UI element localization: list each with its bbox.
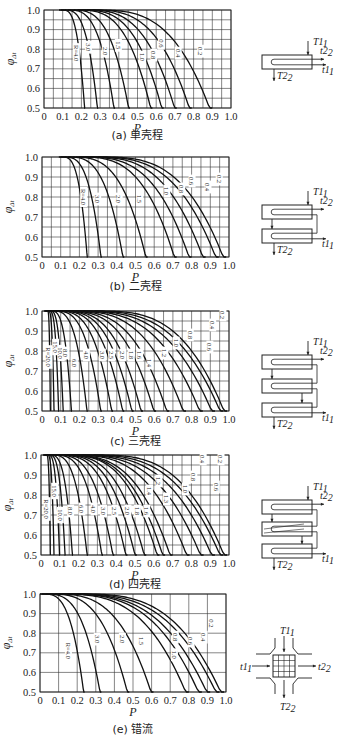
curve-label: 1.5 [115,39,122,52]
curve-label: 1.4 [146,485,153,498]
curve-label: 1.0 [171,648,178,661]
curve-label: 1.5 [138,635,145,648]
x-tick-label: 1.0 [222,414,235,425]
curve-label: 1.3 [163,493,170,506]
y-tick-label: 0.6 [27,83,40,94]
x-tick-label: 0.4 [110,414,124,425]
curve-label: 1.5 [136,193,143,206]
x-tick-label: 0.3 [91,558,104,569]
x-tick-label: 0 [39,414,44,425]
x-tick-label: 0.7 [166,414,179,425]
svg-text:0.6: 0.6 [187,637,194,646]
svg-text:0.2: 0.2 [216,175,223,183]
svg-text:1.3: 1.3 [163,495,170,503]
exchanger-diagram-cross-flow: T11t11t22T22 [240,625,331,714]
curve-label: 1.6 [136,349,143,362]
chart-panel-a: R=4.03.02.01.51.00.80.60.40.200.10.20.30… [3,5,334,143]
y-tick-label: 1.0 [25,306,38,317]
curve-label: 1.8 [134,505,141,518]
y-tick-label: 0.7 [25,212,38,223]
y-tick-label: 0.7 [25,366,38,377]
x-tick-label: 0.1 [56,111,69,122]
x-tick-label: 0.6 [147,558,160,569]
svg-text:T22: T22 [277,559,293,572]
y-tick-label: 0.5 [25,406,38,417]
y-axis-label: φΔt [0,498,15,512]
curve-label: 0.8 [178,183,185,196]
y-axis-label: φΔt [3,52,18,66]
svg-text:8.0: 8.0 [62,349,69,357]
y-tick-label: 0.7 [24,510,37,521]
svg-text:T22: T22 [277,70,293,83]
y-tick-label: 0.8 [23,628,36,639]
grid [44,10,231,108]
x-tick-label: 0.9 [201,695,214,706]
x-tick-label: 0.1 [53,558,66,569]
svg-text:t11: t11 [322,553,334,566]
svg-text:T22: T22 [280,701,296,714]
curve-label: 0.8 [190,471,197,484]
curve-label: 0.8 [150,49,157,62]
x-tick-label: 0.7 [168,111,181,122]
svg-text:t22: t22 [318,661,331,674]
svg-text:3.0: 3.0 [99,351,106,359]
svg-text:1.0: 1.0 [163,187,170,195]
svg-text:R=4.0: R=4.0 [80,189,87,205]
svg-text:1.8: 1.8 [134,507,141,515]
y-tick-label: 0.8 [25,192,38,203]
chart-caption: (c) 三壳程 [110,434,161,448]
svg-text:2.5: 2.5 [111,507,118,515]
curve-label: 0.4 [199,453,206,466]
svg-text:R=20.0: R=20.0 [45,347,52,366]
svg-text:0.6: 0.6 [213,483,220,492]
x-tick-label: 0.6 [148,260,161,271]
y-tick-label: 1.0 [27,5,40,16]
curve-label: 1.2 [155,475,162,488]
svg-text:3.0: 3.0 [94,635,101,643]
x-tick-label: 0.7 [166,260,179,271]
svg-text:0.2: 0.2 [197,47,204,55]
curve-label: 3.0 [94,633,101,646]
svg-text:t22: t22 [320,490,333,503]
curve-label: 2.5 [111,505,118,518]
curve-label: 1.0 [173,337,180,350]
x-tick-label: 0.3 [89,695,102,706]
svg-text:0.8: 0.8 [150,51,157,59]
svg-text:t11: t11 [322,412,334,425]
y-tick-label: 1.0 [24,450,37,461]
x-tick-label: 0.8 [182,695,195,706]
x-tick-label: 0.1 [52,695,65,706]
curve-label: 1.0 [163,185,170,198]
curve-label: 3.0 [94,193,101,206]
svg-text:0.2: 0.2 [217,455,224,463]
svg-text:R=20.0: R=20.0 [43,499,50,518]
exchanger-diagram-single-shell: T11t22t11T22 [262,36,334,83]
y-tick-label: 0.7 [27,63,40,74]
chart-caption: (b) 二壳程 [109,279,161,293]
svg-text:R=4.0: R=4.0 [73,45,80,61]
x-tick-label: 0.9 [204,558,217,569]
curve-label: 0.6 [188,175,195,188]
svg-text:6.0: 6.0 [71,359,78,367]
curve-label: R=20.0 [45,345,52,369]
chart-caption: (d) 四壳程 [109,577,161,591]
svg-text:1.0: 1.0 [171,651,178,659]
y-tick-label: 0.6 [24,530,37,541]
svg-text:1.0: 1.0 [182,485,189,493]
svg-text:0.2: 0.2 [208,619,215,627]
svg-text:t22: t22 [320,195,333,208]
exchanger-diagram-two-shell: T11t22t11T22 [262,186,334,257]
curve-label: 4.0 [83,349,90,362]
curve-label: 0.6 [187,635,194,648]
curve-label: 0.4 [175,47,182,60]
svg-text:t22: t22 [320,345,333,358]
x-tick-label: 1.0 [224,111,237,122]
svg-text:1.0: 1.0 [139,53,146,61]
curve-label: 0.4 [200,631,207,644]
x-tick-label: 0 [38,558,43,569]
svg-text:T22: T22 [277,418,293,431]
x-tick-label: 0.8 [185,414,198,425]
curve-label: 1.0 [139,51,146,64]
y-tick-label: 0.5 [23,687,36,698]
curve-label: R=4.0 [80,187,87,207]
